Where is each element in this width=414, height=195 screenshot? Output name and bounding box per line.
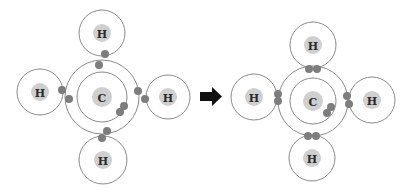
electron [101, 50, 109, 58]
before-molecule: C H H H [17, 10, 190, 184]
hydrogen-atom-top-before: H [79, 10, 125, 58]
hydrogen-label: H [35, 87, 45, 100]
hydrogen-label: H [163, 92, 173, 105]
right-arrow-icon [200, 87, 222, 106]
hydrogen-atom-top-after: H [290, 22, 336, 73]
electron [116, 108, 124, 116]
hydrogen-atom-right-before: H [141, 75, 190, 119]
carbon-label: C [309, 96, 318, 109]
hydrogen-atom-bottom-before: H [79, 134, 127, 184]
hydrogen-label: H [308, 40, 318, 53]
carbon-label: C [98, 92, 107, 105]
electron [134, 87, 142, 95]
electron [141, 95, 149, 103]
methane-bonding-diagram: C H H H [0, 0, 414, 195]
shared-electron [343, 92, 351, 100]
shared-electron [304, 132, 312, 140]
shared-electron [274, 90, 282, 98]
after-molecule: C H H H [231, 22, 395, 181]
hydrogen-label: H [307, 153, 317, 166]
electron [95, 61, 103, 69]
hydrogen-label: H [367, 95, 377, 108]
hydrogen-label: H [98, 155, 108, 168]
electron [103, 127, 111, 135]
shared-electron [345, 100, 353, 108]
carbon-atom-before: C [65, 60, 142, 135]
carbon-atom-after: C [278, 66, 348, 136]
hydrogen-label: H [97, 28, 107, 41]
electron [65, 95, 73, 103]
shared-electron [274, 97, 282, 105]
electron [323, 109, 331, 117]
hydrogen-label: H [249, 92, 259, 105]
hydrogen-atom-left-before: H [17, 69, 66, 115]
hydrogen-atom-left-after: H [231, 74, 282, 120]
shared-electron [312, 132, 320, 140]
electron [58, 86, 66, 94]
shared-electron [313, 65, 321, 73]
hydrogen-atom-right-after: H [343, 77, 395, 123]
shared-electron [305, 65, 313, 73]
electron [98, 134, 106, 142]
hydrogen-atom-bottom-after: H [289, 132, 335, 181]
